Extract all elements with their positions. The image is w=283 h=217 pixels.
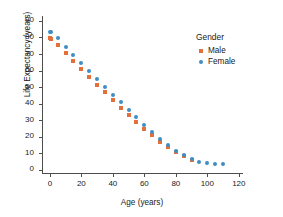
y-tick-label: 30 [25, 115, 34, 124]
data-point [127, 113, 131, 117]
data-point [64, 45, 68, 49]
data-point [111, 98, 115, 102]
y-tick-label: 80 [25, 32, 34, 41]
data-point [142, 127, 146, 131]
x-tick-mark [239, 174, 240, 177]
data-point [103, 90, 107, 94]
data-point [134, 115, 138, 119]
data-point [221, 162, 225, 166]
data-point [79, 61, 83, 65]
data-point [150, 133, 154, 137]
data-point [190, 157, 194, 161]
x-axis-title: Age (years) [42, 198, 242, 207]
x-tick-mark [50, 174, 51, 177]
data-point [71, 53, 75, 57]
data-point [56, 43, 60, 47]
y-tick-label: 90 [25, 15, 34, 24]
data-point [49, 30, 53, 34]
data-point [213, 162, 217, 166]
data-point [49, 37, 53, 41]
data-point [95, 83, 99, 87]
x-tick-label: 100 [193, 179, 221, 188]
x-tick-mark [207, 174, 208, 177]
data-point [197, 160, 201, 164]
data-point [127, 108, 131, 112]
data-point [119, 106, 123, 110]
x-tick-label: 120 [225, 179, 253, 188]
legend-label-female: Female [208, 56, 235, 67]
legend: Gender Male Female [196, 32, 235, 67]
legend-title: Gender [196, 32, 235, 42]
x-tick-mark [176, 174, 177, 177]
x-tick-mark [144, 174, 145, 177]
x-axis-spine [42, 173, 243, 174]
x-tick-label: 40 [99, 179, 127, 188]
data-point [134, 120, 138, 124]
y-tick-label: 50 [25, 82, 34, 91]
legend-entry-female[interactable]: Female [196, 56, 235, 67]
x-tick-label: 0 [36, 179, 64, 188]
data-point [174, 149, 178, 153]
legend-swatch-female-icon [199, 60, 203, 64]
x-tick-mark [113, 174, 114, 177]
legend-label-male: Male [208, 45, 226, 56]
y-tick-label: 40 [25, 98, 34, 107]
data-point [103, 85, 107, 89]
data-point [166, 143, 170, 147]
data-point [79, 67, 83, 71]
data-point [87, 75, 91, 79]
data-point [71, 59, 75, 63]
y-tick-label: 20 [25, 131, 34, 140]
data-point [87, 69, 91, 73]
scatter-chart-figure: Life Expectancy (years) Age (years) 0102… [0, 0, 283, 217]
x-tick-mark [81, 174, 82, 177]
data-point [119, 100, 123, 104]
x-tick-label: 20 [67, 179, 95, 188]
y-tick-label: 0 [30, 164, 34, 173]
y-tick-label: 70 [25, 49, 34, 58]
data-point [64, 51, 68, 55]
x-tick-label: 80 [162, 179, 190, 188]
data-point [95, 77, 99, 81]
data-point [56, 36, 60, 40]
data-point [111, 93, 115, 97]
legend-entry-male[interactable]: Male [196, 45, 235, 56]
y-tick-label: 60 [25, 65, 34, 74]
data-point [205, 161, 209, 165]
data-point [158, 137, 162, 141]
y-tick-label: 10 [25, 148, 34, 157]
x-tick-label: 60 [130, 179, 158, 188]
legend-swatch-male-icon [199, 49, 203, 53]
